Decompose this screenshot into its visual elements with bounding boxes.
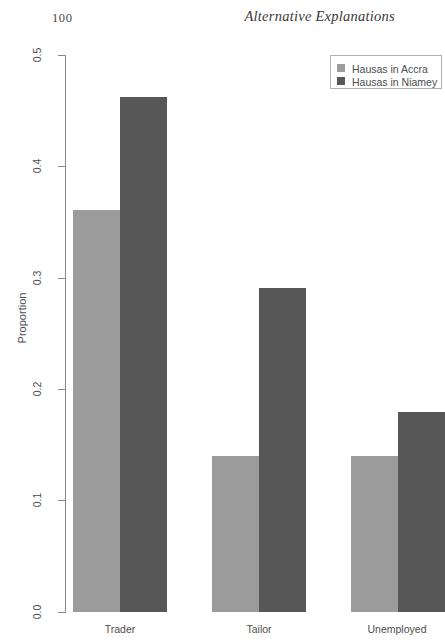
bar-trader-niamey [120, 97, 167, 612]
x-category-label-tailor: Tailor [234, 623, 284, 635]
y-tick-label: 0.3 [30, 263, 44, 293]
y-tick-mark [58, 166, 65, 167]
bar-unemployed-niamey [398, 412, 445, 612]
y-tick-mark [58, 500, 65, 501]
bar-trader-accra [73, 210, 120, 612]
legend-swatch-icon [337, 64, 345, 72]
legend-item-accra: Hausas in Accra [337, 61, 428, 75]
y-tick-label: 0.4 [30, 151, 44, 181]
y-axis-line [65, 55, 66, 613]
x-category-label-trader: Trader [95, 623, 145, 635]
y-tick-mark [58, 389, 65, 390]
legend-item-niamey: Hausas in Niamey [337, 74, 437, 88]
x-category-label-unemployed: Unemployed [359, 623, 435, 635]
y-axis-title: Proportion [14, 268, 30, 368]
y-tick-mark [58, 55, 65, 56]
y-tick-label: 0.5 [30, 40, 44, 70]
bar-tailor-niamey [259, 288, 306, 612]
y-tick-label: 0.1 [30, 485, 44, 515]
bar-tailor-accra [212, 456, 259, 612]
legend-label: Hausas in Niamey [352, 75, 437, 89]
chart-legend: Hausas in Accra Hausas in Niamey [330, 55, 442, 89]
y-tick-mark [58, 612, 65, 613]
y-tick-mark [58, 278, 65, 279]
bar-unemployed-accra [351, 456, 398, 612]
y-tick-label: 0.0 [30, 597, 44, 627]
y-tick-label: 0.2 [30, 374, 44, 404]
legend-swatch-icon [337, 77, 345, 85]
